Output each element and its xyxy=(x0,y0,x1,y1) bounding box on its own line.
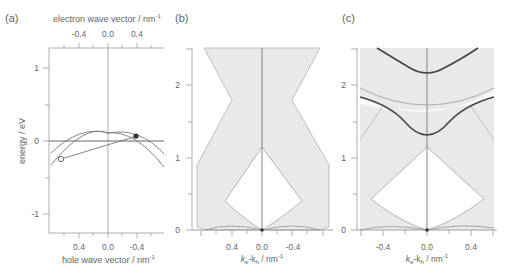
panel-b: (b) 2 1 0 0.4 0.0 -0.4 ke-kh / nm-1 xyxy=(175,12,333,265)
panel-a: (a) electron wave vector / nm-1 -0.4 0.0… xyxy=(5,12,164,265)
c-y-tick-0: 0 xyxy=(341,225,346,235)
panel-b-label: (b) xyxy=(175,12,188,24)
a-y-tick-neg1: -1 xyxy=(31,209,39,219)
panel-a-top-title: electron wave vector / nm-1 xyxy=(53,13,162,24)
c-origin-dot xyxy=(425,228,429,232)
panel-c-label: (c) xyxy=(342,12,355,24)
a-filled-marker xyxy=(133,133,138,138)
a-electron-band xyxy=(51,131,164,154)
c-x-tick-04: 0.4 xyxy=(465,242,477,252)
c-xlabel: ke-kh / nm-1 xyxy=(406,253,449,265)
a-ylabel: energy / eV xyxy=(17,118,27,164)
b-xlabel: ke-kh / nm-1 xyxy=(241,253,284,265)
a-top-tick-neg04: -0.4 xyxy=(72,29,87,39)
a-bottom-tick-0: 0.0 xyxy=(102,242,114,252)
b-origin-dot xyxy=(260,228,264,232)
figure: (a) electron wave vector / nm-1 -0.4 0.0… xyxy=(0,0,509,280)
c-y-tick-2: 2 xyxy=(341,80,346,90)
b-y-tick-1: 1 xyxy=(175,153,180,163)
b-x-tick-0: 0.0 xyxy=(256,242,268,252)
a-y-tick-0: 0 xyxy=(34,136,39,146)
b-y-tick-0: 0 xyxy=(175,225,180,235)
a-hole-band xyxy=(51,131,164,167)
a-y-tick-1: 1 xyxy=(34,63,39,73)
c-x-tick-0: 0.0 xyxy=(421,242,433,252)
b-x-tick-04: 0.4 xyxy=(226,242,238,252)
c-x-tick-neg04: -0.4 xyxy=(376,242,391,252)
panel-a-label: (a) xyxy=(5,12,18,24)
a-top-tick-04: 0.4 xyxy=(131,29,143,39)
a-bottom-tick-04: 0.4 xyxy=(73,242,85,252)
b-y-tick-2: 2 xyxy=(175,80,180,90)
a-bottom-tick-neg04: -0.4 xyxy=(130,242,145,252)
a-top-tick-0: 0.0 xyxy=(102,29,114,39)
a-bottom-title: hole wave vector / nm-1 xyxy=(62,254,156,265)
a-open-marker xyxy=(58,156,63,161)
b-x-tick-neg04: -0.4 xyxy=(286,242,301,252)
c-y-tick-1: 1 xyxy=(341,153,346,163)
a-transition-line xyxy=(61,136,137,159)
panel-c: (c) 2 1 0 -0.4 0.0 0.4 ke-kh / nm-1 xyxy=(341,12,497,265)
